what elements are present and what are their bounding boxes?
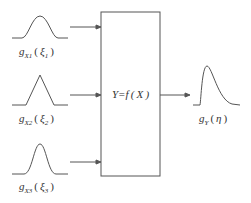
input-2-distribution-curve [12, 75, 68, 105]
input-3-label: gX3(ξ3) [19, 180, 56, 195]
output-label: gY(η) [199, 112, 229, 127]
output-distribution-curve [193, 66, 240, 105]
input-3-distribution-curve [12, 144, 68, 174]
input-arrows [70, 25, 101, 164]
system-function-label: Y=f ( X ) [101, 88, 160, 100]
input-2-label: gX2(ξ2) [19, 112, 56, 127]
input-1-distribution-curve [12, 16, 68, 38]
diagram-canvas [0, 0, 251, 203]
input-1-label: gX1(ξ1) [19, 45, 56, 60]
output-arrow [160, 93, 190, 97]
